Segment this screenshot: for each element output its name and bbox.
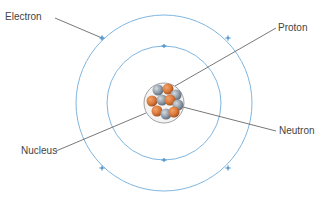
proton-icon: [169, 107, 180, 118]
electron-icon: [99, 165, 105, 171]
atom-diagram: Electron Proton Neutron Nucleus: [0, 0, 336, 203]
electron-icon: [161, 45, 167, 48]
neutron-label: Neutron: [279, 125, 315, 137]
neutron-icon: [153, 85, 164, 96]
proton-icon: [147, 96, 158, 107]
nucleus: [144, 83, 184, 123]
electron-icon: [161, 159, 167, 162]
electron-leader-line: [55, 18, 102, 38]
electron-label: Electron: [5, 11, 42, 23]
electron-icon: [99, 35, 105, 41]
nucleus-label: Nucleus: [21, 145, 57, 157]
neutron-leader-line: [183, 107, 276, 131]
proton-label: Proton: [278, 22, 307, 34]
proton-leader-line: [175, 28, 276, 86]
nucleus-leader-line: [56, 113, 146, 151]
